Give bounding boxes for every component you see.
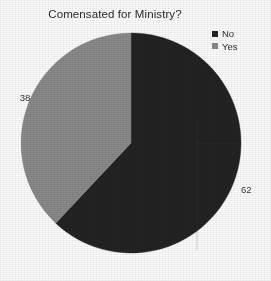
legend-item-yes[interactable]: Yes: [212, 42, 238, 52]
legend-swatch-no-square-marker-icon: [212, 31, 218, 37]
chart-legend: No Yes: [212, 29, 238, 51]
pie-value-label-no: 62: [241, 184, 265, 195]
legend-label-yes: Yes: [222, 42, 238, 52]
legend-item-no[interactable]: No: [212, 29, 238, 39]
legend-label-no: No: [222, 29, 234, 39]
legend-swatch-yes-square-marker-icon: [212, 43, 218, 49]
pie-chart-screenshot: Comensated for Ministry? 38 62 No Yes: [0, 0, 271, 281]
pie-value-label-yes: 38: [12, 92, 38, 103]
